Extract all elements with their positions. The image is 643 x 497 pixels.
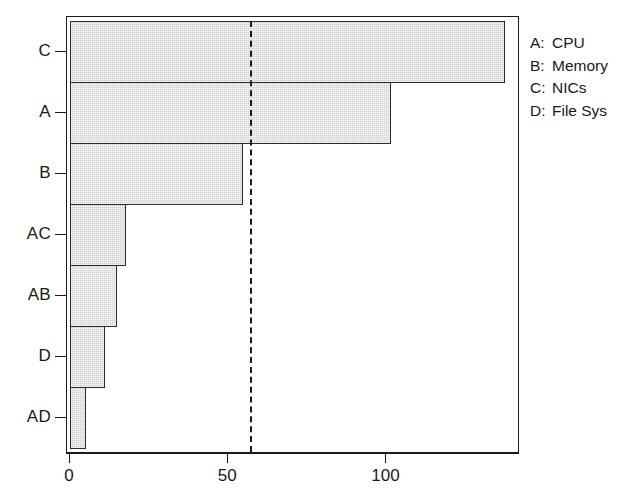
x-tick <box>227 453 228 463</box>
legend-item-b: B: Memory <box>530 55 640 78</box>
y-tick <box>55 51 66 52</box>
x-axis-label-50: 50 <box>218 466 237 486</box>
y-tick <box>55 112 66 113</box>
y-axis-label-a: A <box>39 102 51 122</box>
y-axis-label-ac: AC <box>27 224 51 244</box>
legend-item-c: C: NICs <box>530 77 640 100</box>
plot-inner <box>67 17 518 452</box>
x-axis-line <box>66 453 519 454</box>
bar-b <box>70 143 243 205</box>
legend-name-c: NICs <box>548 77 586 100</box>
y-tick <box>55 234 66 235</box>
legend: A: CPU B: Memory C: NICs D: File Sys <box>530 32 640 122</box>
legend-name-a: CPU <box>548 32 585 55</box>
pareto-chart: C A B AC AB D AD 0 50 100 A: <box>0 0 643 497</box>
x-axis: 0 50 100 <box>66 453 519 497</box>
y-axis-label-c: C <box>38 41 51 61</box>
x-axis-label-100: 100 <box>371 466 399 486</box>
plot-area <box>66 16 519 453</box>
legend-key-c: C: <box>530 77 548 100</box>
y-tick <box>55 417 66 418</box>
y-axis: C A B AC AB D AD <box>0 16 66 453</box>
x-axis-label-0: 0 <box>64 466 73 486</box>
legend-item-d: D: File Sys <box>530 100 640 123</box>
y-tick <box>55 295 66 296</box>
legend-key-a: A: <box>530 32 548 55</box>
bar-ad <box>70 387 86 449</box>
bar-ac <box>70 204 126 266</box>
legend-name-b: Memory <box>548 55 608 78</box>
y-axis-label-d: D <box>38 346 51 366</box>
bar-ab <box>70 265 117 327</box>
x-tick <box>385 453 386 463</box>
legend-name-d: File Sys <box>548 100 607 123</box>
bar-d <box>70 326 105 388</box>
reference-line <box>250 21 252 452</box>
x-tick <box>69 453 70 463</box>
bar-c <box>70 21 505 83</box>
legend-item-a: A: CPU <box>530 32 640 55</box>
y-axis-label-ad: AD <box>27 407 51 427</box>
legend-key-d: D: <box>530 100 548 123</box>
y-axis-label-b: B <box>39 163 51 183</box>
y-axis-label-ab: AB <box>28 285 51 305</box>
legend-key-b: B: <box>530 55 548 78</box>
y-tick <box>55 356 66 357</box>
y-tick <box>55 173 66 174</box>
bar-a <box>70 82 391 144</box>
